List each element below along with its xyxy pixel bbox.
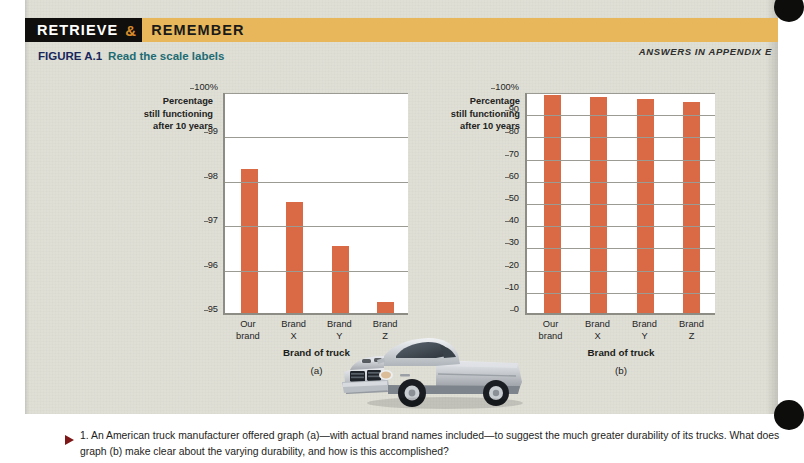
chart-b-gridline	[527, 248, 715, 249]
bar-a-2	[332, 246, 349, 313]
chart-a-gridline	[225, 137, 408, 138]
chart-a-y-tick-label: 96	[208, 260, 218, 270]
chart-a-y-tick-label: 95	[208, 304, 218, 314]
pickup-truck-photo	[340, 330, 545, 412]
chart-a-x-tick-label-line: Brand	[365, 319, 405, 331]
footer-question-area: 1. An American truck manufacturer offere…	[25, 414, 778, 463]
chart-a-y-tick-label: 99	[208, 126, 218, 136]
page-right-shadow	[766, 0, 778, 414]
question-text: 1. An American truck manufacturer offere…	[80, 428, 792, 460]
chart-b-x-tick-label-line: Brand	[578, 319, 618, 331]
bar-b-3	[683, 102, 700, 313]
textbook-page: RETRIEVE & REMEMBER ANSWERS IN APPENDIX …	[0, 0, 804, 463]
chart-b-x-tick-label-line: X	[578, 331, 618, 343]
chart-b-x-tick-label-line: Our	[531, 319, 571, 331]
chart-a-y-tick-mark	[204, 221, 208, 222]
chart-b-y-tick-mark	[491, 88, 495, 89]
chart-b-y-tick-mark	[505, 243, 509, 244]
chart-a-y-tick-mark	[204, 266, 208, 267]
bar-b-2	[637, 99, 654, 313]
binding-hole-bottom	[774, 400, 804, 430]
chart-b-y-tick-label: 40	[509, 215, 519, 225]
chart-a-y-tick-mark	[204, 132, 208, 133]
chart-b-x-tick-label: BrandX	[578, 319, 618, 342]
chart-a-y-tick-mark	[204, 310, 208, 311]
chart-b-y-tick-label: 90	[509, 104, 519, 114]
chart-b-y-tick-mark	[505, 266, 509, 267]
chart-a-y-tick-label: 100%	[194, 82, 218, 92]
chart-b-bar-group	[529, 93, 715, 313]
retrieve-remember-header: RETRIEVE & REMEMBER	[25, 18, 778, 42]
chart-b-x-axis-title: Brand of truck	[527, 347, 715, 358]
chart-b-y-tick-mark	[505, 110, 509, 111]
chart-a-x-tick-label-line: brand	[228, 331, 268, 343]
bar-a-3	[377, 302, 394, 313]
chart-a-y-tick-mark	[204, 177, 208, 178]
figure-caption: FIGURE A.1Read the scale labels	[38, 50, 224, 62]
truck-illustration	[340, 330, 545, 412]
chart-b-y-tick-label: 20	[509, 260, 519, 270]
chart-b-x-tick-label: BrandY	[625, 319, 665, 342]
chart-b-y-tick-mark	[505, 155, 509, 156]
chart-b-y-tick-label: 50	[509, 193, 519, 203]
chart-b-y-ticks: 100%9080706050403020100	[479, 88, 519, 310]
chart-a-bar-group	[227, 93, 408, 313]
chart-a-x-tick-label: Ourbrand	[228, 319, 268, 342]
figure-number: FIGURE A.1	[38, 50, 102, 62]
chart-b-gridline	[527, 182, 715, 183]
chart-b-plot-area	[525, 93, 715, 315]
chart-b-y-tick-label: 0	[514, 304, 519, 314]
chart-a-y-tick-label: 98	[208, 171, 218, 181]
header-ampersand: &	[125, 22, 136, 39]
chart-a-x-tick-label: BrandX	[274, 319, 314, 342]
chart-b-gridline	[527, 160, 715, 161]
chart-b-y-tick-mark	[505, 221, 509, 222]
chart-a-x-tick-label-line: Brand	[319, 319, 359, 331]
answers-appendix-note: ANSWERS IN APPENDIX E	[639, 46, 772, 57]
chart-a-gridline	[225, 271, 408, 272]
chart-b-y-tick-mark	[505, 288, 509, 289]
chart-a-y-ticks: 100%9998979695	[180, 88, 218, 310]
chart-b-y-tick-mark	[510, 310, 514, 311]
header-label-retrieve: RETRIEVE	[37, 22, 118, 38]
chart-b-y-tick-label: 60	[509, 171, 519, 181]
chart-b-y-tick-label: 30	[509, 237, 519, 247]
chart-b-gridline	[527, 226, 715, 227]
bar-a-0	[241, 169, 258, 313]
chart-b-gridline	[527, 293, 715, 294]
bar-a-1	[286, 202, 303, 313]
chart-b-x-tick-label: BrandZ	[672, 319, 712, 342]
chart-b-x-tick-label-line: Brand	[672, 319, 712, 331]
chart-b-x-tick-label-line: Y	[625, 331, 665, 343]
chart-b-x-tick-label-line: Z	[672, 331, 712, 343]
chart-b-gridline	[527, 204, 715, 205]
chart-a-y-tick-mark	[190, 88, 194, 89]
chart-b-y-tick-label: 100%	[495, 82, 519, 92]
chart-a-x-tick-label-line: Brand	[274, 319, 314, 331]
chart-a-y-tick-label: 97	[208, 215, 218, 225]
chart-b-y-tick-mark	[505, 177, 509, 178]
chart-a-x-tick-label-line: X	[274, 331, 314, 343]
chart-b-y-tick-label: 70	[509, 149, 519, 159]
page-left-shadow	[25, 0, 29, 414]
chart-b-gridline	[527, 115, 715, 116]
chart-a-x-tick-label-line: Our	[228, 319, 268, 331]
chart-a-gridline	[225, 226, 408, 227]
chart-b-x-tick-label-line: Brand	[625, 319, 665, 331]
chart-a-plot-area	[223, 93, 408, 315]
chart-b-gridline	[527, 137, 715, 138]
chart-b-panel-label: (b)	[527, 365, 715, 376]
header-black-block: RETRIEVE &	[25, 18, 142, 42]
figure-title: Read the scale labels	[108, 50, 224, 62]
binding-hole-top	[774, 0, 804, 22]
question-bullet-icon	[65, 435, 74, 445]
chart-b-x-tick-labels: OurbrandBrandXBrandYBrandZ	[527, 319, 715, 342]
chart-a-gridline	[225, 93, 408, 94]
chart-b-gridline	[527, 93, 715, 94]
chart-b-y-tick-label: 80	[509, 126, 519, 136]
header-label-remember: REMEMBER	[151, 22, 244, 38]
chart-b-y-tick-label: 10	[509, 282, 519, 292]
chart-b-y-tick-mark	[505, 132, 509, 133]
chart-b-y-tick-mark	[505, 199, 509, 200]
chart-b-gridline	[527, 271, 715, 272]
